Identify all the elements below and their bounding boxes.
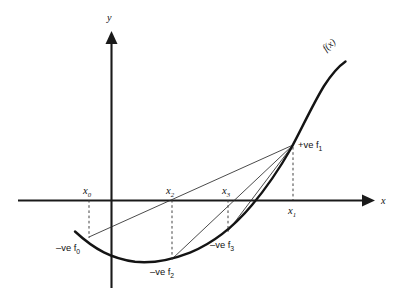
label-f2-prefix: –ve f	[150, 266, 171, 277]
x-axis-label: x	[380, 195, 386, 206]
label-x3-subscript: 3	[226, 191, 231, 198]
y-axis-label: y	[106, 12, 112, 23]
label-f1-subscript: 1	[319, 145, 323, 152]
label-x2-subscript: 2	[171, 191, 175, 198]
label-f2-subscript: 2	[170, 272, 174, 279]
label-f1-prefix: +ve f	[298, 139, 319, 150]
label-f3-subscript: 3	[230, 245, 234, 252]
label-x0-subscript: 0	[88, 191, 92, 198]
label-f0-subscript: 0	[76, 248, 80, 255]
label-x1-subscript: 1	[293, 211, 296, 218]
function-plot-diagram: x y f(x) x0 x2 x3 x1 –ve f0 –ve f2	[0, 0, 393, 288]
label-f3-prefix: –ve f	[210, 239, 231, 250]
label-f0-prefix: –ve f	[56, 242, 77, 253]
